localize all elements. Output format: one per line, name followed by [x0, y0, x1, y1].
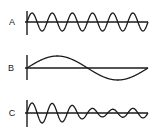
waveform-diagram: [0, 0, 166, 134]
wave-b-group: [25, 55, 148, 80]
wave-c-group: [25, 100, 148, 127]
wave-a-group: [25, 11, 148, 35]
